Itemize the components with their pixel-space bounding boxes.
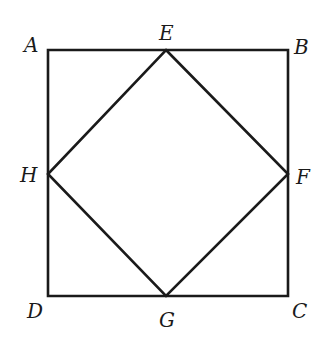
label-c: C — [292, 299, 307, 323]
geometry-diagram: A E B H F D G C — [0, 0, 327, 344]
label-a: A — [22, 33, 38, 57]
label-f: F — [295, 165, 311, 189]
inner-square-efgh — [48, 50, 288, 296]
outer-square-abcd — [48, 50, 288, 296]
label-b: B — [293, 35, 309, 59]
label-e: E — [158, 21, 174, 45]
label-h: H — [19, 163, 38, 187]
label-g: G — [159, 308, 175, 332]
label-d: D — [26, 299, 43, 323]
